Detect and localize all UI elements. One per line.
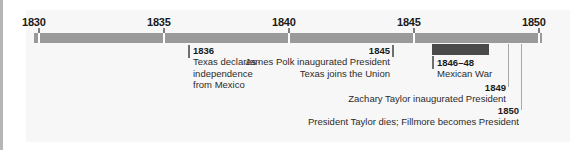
event-text-1845-line2: Texas joins the Union (212, 68, 390, 80)
event-text-mexican-war: Mexican War (437, 68, 492, 80)
event-text-1845-line1: James Polk inaugurated President (212, 56, 390, 68)
event-leader-1845 (392, 45, 394, 57)
event-text-1836-line3: from Mexico (193, 79, 256, 91)
axis-label-1830: 1830 (22, 16, 46, 28)
event-leader-1836 (188, 45, 190, 58)
event-1845: 1845 James Polk inaugurated President Te… (212, 45, 390, 79)
event-span-bar-mexican-war (432, 44, 489, 55)
event-1849: 1849 Zachary Taylor inaugurated Presiden… (300, 82, 506, 105)
event-leader-1850 (521, 44, 522, 110)
event-1850: 1850 President Taylor dies; Fillmore bec… (270, 105, 519, 128)
axis-label-1850: 1850 (522, 16, 546, 28)
axis-tick-1840 (288, 33, 290, 43)
left-edge-rule (0, 0, 3, 150)
event-leader-1849 (508, 44, 509, 87)
axis-label-1835: 1835 (147, 16, 171, 28)
axis-label-1845: 1845 (397, 16, 421, 28)
event-year-1850: 1850 (270, 105, 519, 116)
event-year-1846-48: 1846–48 (437, 57, 492, 68)
axis-label-1840: 1840 (272, 16, 296, 28)
axis-tick-1850 (538, 33, 540, 43)
timeline-figure: 1830 1835 1840 1845 1850 1836 Texas decl… (0, 0, 570, 150)
axis-tick-1835 (163, 33, 165, 43)
event-text-1850: President Taylor dies; Fillmore becomes … (270, 116, 519, 128)
event-1846-48: 1846–48 Mexican War (437, 57, 492, 80)
axis-tick-1845 (413, 33, 415, 43)
axis-tick-1830 (38, 33, 40, 43)
event-text-1849: Zachary Taylor inaugurated President (300, 93, 506, 105)
event-year-1849: 1849 (300, 82, 506, 93)
event-leader-mexican-war (432, 56, 434, 69)
event-year-1845: 1845 (212, 45, 390, 56)
